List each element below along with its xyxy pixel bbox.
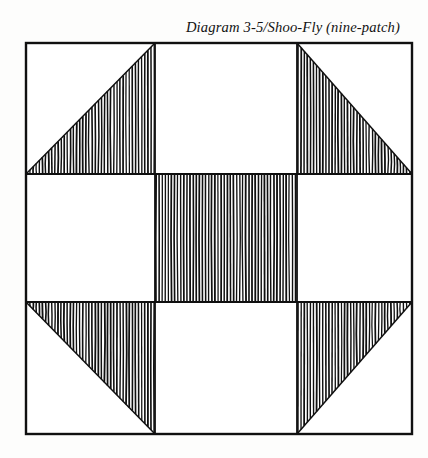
block-background <box>26 43 412 434</box>
diagram-page: Diagram 3-5/Shoo-Fly (nine-patch) <box>0 0 428 458</box>
shoo-fly-block-figure <box>0 0 428 458</box>
